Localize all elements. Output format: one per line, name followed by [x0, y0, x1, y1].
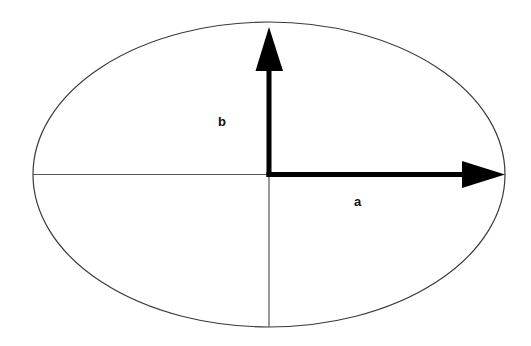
ellipse-diagram-svg: [0, 0, 531, 346]
vector-b-shaft: [267, 70, 272, 177]
vector-a-shaft: [267, 172, 464, 177]
vector-a-arrowhead: [462, 161, 505, 188]
vector-b-arrow: [256, 27, 284, 177]
ellipse-diagram-canvas: b a: [0, 0, 531, 346]
vector-a-arrow: [267, 161, 506, 188]
vector-b-arrowhead: [256, 27, 284, 71]
semi-minor-axis-label: b: [218, 115, 226, 128]
semi-major-axis-label: a: [354, 195, 361, 208]
